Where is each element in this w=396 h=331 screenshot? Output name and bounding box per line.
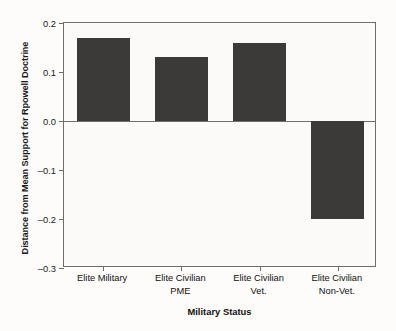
bar-chart-figure: Distance from Mean Support for Rpowell D… (0, 0, 396, 331)
y-axis-tick-label: 0.0 (43, 116, 56, 127)
bar (233, 43, 286, 121)
x-axis-tick (338, 266, 339, 271)
x-axis-category-label: Elite Civilian Non-Vet. (298, 272, 376, 297)
y-axis-tick-label: –0.1 (38, 165, 56, 176)
bar (311, 121, 364, 219)
x-axis-tick (260, 266, 261, 271)
bar (155, 57, 208, 121)
y-axis-tick-label: –0.2 (38, 214, 56, 225)
y-axis-tick-label: 0.2 (43, 18, 56, 29)
x-axis-category-label: Elite Civilian Vet. (220, 272, 298, 297)
y-axis-tick-label: –0.3 (38, 263, 56, 274)
bar (77, 38, 130, 121)
x-axis-tick (103, 266, 104, 271)
y-axis-tick (59, 219, 64, 220)
y-axis-title: Distance from Mean Support for Rpowell D… (20, 18, 30, 278)
x-axis-tick (181, 266, 182, 271)
plot-area: 0.20.10.0–0.1–0.2–0.3 (63, 22, 376, 267)
y-axis-tick (59, 72, 64, 73)
x-axis-title: Military Status (63, 306, 376, 317)
y-axis-tick (59, 121, 64, 122)
x-axis-category-label: Elite Military (63, 272, 141, 285)
y-axis-tick (59, 170, 64, 171)
y-axis-tick (59, 268, 64, 269)
y-axis-tick-label: 0.1 (43, 67, 56, 78)
y-axis-tick (59, 23, 64, 24)
x-axis-category-label: Elite Civilian PME (141, 272, 219, 297)
